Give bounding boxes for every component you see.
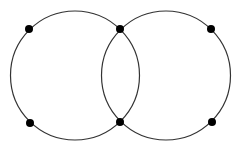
two-circle-diagram bbox=[0, 0, 236, 151]
node-left-bottom bbox=[26, 119, 34, 127]
node-right-top bbox=[207, 25, 215, 33]
node-intersection-top bbox=[116, 25, 124, 33]
node-right-bottom bbox=[208, 118, 216, 126]
node-intersection-bottom bbox=[116, 118, 124, 126]
nodes bbox=[25, 25, 216, 127]
node-left-top bbox=[25, 25, 33, 33]
